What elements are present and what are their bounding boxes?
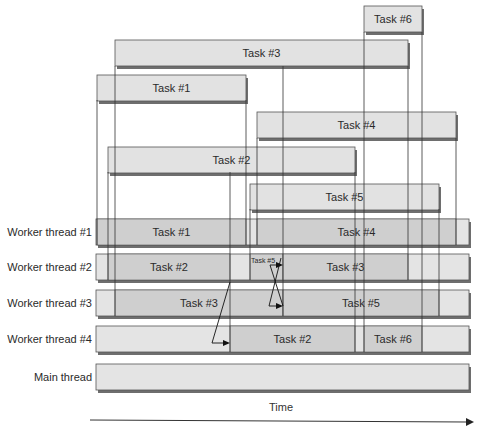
task-label: Task #1 [153,82,191,94]
worker-thread-1-row: Worker thread #1Task #1Task #4 [7,219,471,248]
worker-thread-2-row: Worker thread #2Task #2Task #5Task #3 [7,254,471,283]
thread-timeline-diagram: Task #6Task #3Task #1Task #4Task #2Task … [0,0,478,427]
segment-label: Task #3 [327,261,365,273]
worker-thread-3-row: Worker thread #3Task #3Task #5 [7,290,471,319]
segment-label: Task #6 [374,333,412,345]
thread-label: Worker thread #4 [7,333,92,345]
task-label: Task #5 [326,191,364,203]
segment-label: Task #1 [153,226,191,238]
thread-label: Worker thread #1 [7,226,92,238]
row-body [96,364,469,390]
task-bars: Task #6Task #3Task #1Task #4Task #2Task … [97,6,458,213]
segment-label: Task #4 [338,226,376,238]
time-axis-line [90,420,466,422]
task-label: Task #4 [338,119,376,131]
task-label: Task #2 [213,154,251,166]
time-axis-label: Time [269,401,293,413]
thread-rows: Worker thread #1Task #1Task #4Worker thr… [7,219,471,393]
segment-label: Task #5 [342,297,380,309]
time-axis-arrowhead [466,418,474,426]
segment-label: Task #2 [274,333,312,345]
thread-label: Main thread [34,371,92,383]
segment-label-small: Task #5 [251,257,275,264]
segment-label: Task #2 [150,261,188,273]
worker-thread-4-row: Worker thread #4Task #2Task #6 [7,326,471,355]
segment-label: Task #3 [180,297,218,309]
task-1-bar: Task #1 [97,75,248,104]
task-label: Task #3 [243,47,281,59]
thread-label: Worker thread #3 [7,297,92,309]
task-label: Task #6 [374,13,412,25]
task-5-bar: Task #5 [250,184,441,213]
time-axis: Time [90,401,474,426]
task-3-bar: Task #3 [115,40,410,69]
main-thread-row: Main thread [34,364,471,393]
task-6-bar: Task #6 [364,6,424,35]
task-4-bar: Task #4 [257,112,458,141]
task-2-bar: Task #2 [108,147,357,176]
thread-label: Worker thread #2 [7,261,92,273]
